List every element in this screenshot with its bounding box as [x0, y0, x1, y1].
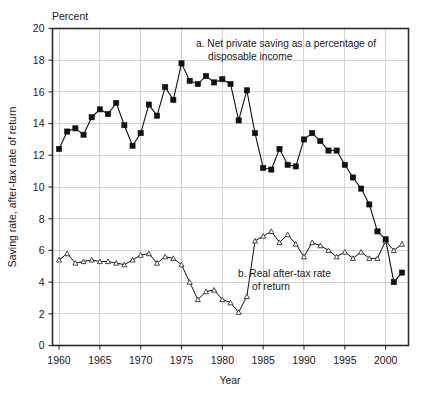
percent-unit-label: Percent [52, 10, 88, 22]
series-a-data-point [383, 237, 388, 242]
y-tick-label: 16 [33, 86, 45, 98]
saving-rate-line-chart: 02468101214161820 1960196519701975198019… [0, 0, 428, 398]
y-tick-label: 10 [33, 181, 45, 193]
series-a-data-point [252, 131, 257, 136]
y-tick-label: 20 [33, 22, 45, 34]
series-a-data-point [244, 88, 249, 93]
series-a-data-point [212, 80, 217, 85]
series-a-data-point [220, 77, 225, 82]
series-a-data-point [114, 100, 119, 105]
series-a-data-point [154, 113, 159, 118]
x-tick-label: 1995 [333, 354, 357, 366]
series-a-data-point [65, 129, 70, 134]
x-tick-label: 1970 [129, 354, 153, 366]
series-a-data-point [163, 85, 168, 90]
x-tick-label: 1990 [292, 354, 316, 366]
series-a-data-point [89, 115, 94, 120]
series-a-data-point [261, 165, 266, 170]
series-a-data-point [326, 148, 331, 153]
y-tick-label: 2 [39, 308, 45, 320]
series-a-data-point [236, 118, 241, 123]
y-tick-label: 6 [39, 244, 45, 256]
series-a-data-point [334, 148, 339, 153]
series-a-data-point [97, 107, 102, 112]
series-a-data-point [122, 123, 127, 128]
series-a-data-point [138, 131, 143, 136]
series-a-data-point [81, 132, 86, 137]
series-a-data-point [359, 186, 364, 191]
series-a-data-point [146, 102, 151, 107]
series-a-data-point [187, 78, 192, 83]
x-axis-title: Year [219, 374, 241, 386]
series-a-data-point [277, 146, 282, 151]
y-tick-label: 0 [39, 339, 45, 351]
series-b-annotation-line1: b. Real after-tax rate [238, 268, 331, 279]
y-tick-label: 8 [39, 213, 45, 225]
x-tick-label: 2000 [374, 354, 398, 366]
series-a-data-point [269, 167, 274, 172]
chart-container: 02468101214161820 1960196519701975198019… [0, 0, 428, 398]
series-a-data-point [130, 143, 135, 148]
series-a-annotation-line2: disposable income [208, 51, 293, 62]
series-a-data-point [301, 137, 306, 142]
series-a-data-point [179, 61, 184, 66]
series-a-data-point [310, 131, 315, 136]
series-a-data-point [56, 146, 61, 151]
x-tick-label: 1975 [170, 354, 194, 366]
x-tick-labels-group: 196019651970197519801985199019952000 [47, 354, 397, 366]
series-a-data-point [228, 81, 233, 86]
y-tick-label: 12 [33, 149, 45, 161]
y-tick-label: 4 [39, 276, 45, 288]
series-a-data-point [375, 229, 380, 234]
series-a-data-point [171, 97, 176, 102]
y-axis-title: Saving rate, after-tax rate of return [6, 107, 18, 268]
series-a-data-point [73, 126, 78, 131]
series-a-data-point [350, 175, 355, 180]
series-a-data-point [105, 111, 110, 116]
series-a-data-point [399, 270, 404, 275]
series-a-annotation-line1: a. Net private saving as a percentage of [196, 38, 376, 49]
y-tick-label: 14 [33, 117, 45, 129]
y-tick-label: 18 [33, 54, 45, 66]
series-a-data-point [293, 164, 298, 169]
series-a-data-point [318, 138, 323, 143]
series-a-data-point [367, 202, 372, 207]
series-b-annotation-line2: of return [252, 281, 290, 292]
series-a-data-point [391, 280, 396, 285]
series-a-data-point [342, 162, 347, 167]
series-a-data-point [195, 81, 200, 86]
series-a-data-point [285, 162, 290, 167]
series-a-data-point [203, 73, 208, 78]
x-tick-label: 1965 [88, 354, 112, 366]
x-tick-label: 1960 [47, 354, 71, 366]
x-tick-label: 1985 [251, 354, 275, 366]
x-tick-label: 1980 [211, 354, 235, 366]
